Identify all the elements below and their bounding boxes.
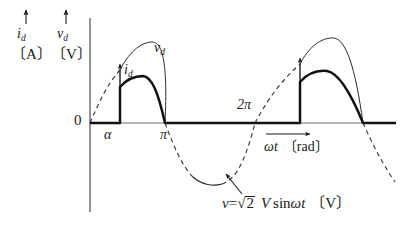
formula-radical-group: √2 (237, 196, 257, 211)
curve-label-id: id (124, 63, 133, 79)
source-voltage-formula: v=√2Vsinωt〔V〕 (222, 196, 351, 211)
x-axis-label: ωt〔rad〕 (264, 140, 329, 154)
source-sine-dashed-rise-1 (90, 70, 120, 123)
formula-leader-arrow (226, 174, 242, 194)
tick-label-pi: π (160, 128, 167, 142)
y-axis-unit-volt: 〔V〕 (51, 47, 92, 62)
source-sine-negative-1 (165, 123, 255, 185)
waveform-figure: id 〔A〕 vd 〔V〕 vd id 0 α π 2π ωt〔rad〕 v=√… (0, 0, 414, 228)
y-axis-unit-ampere: 〔A〕 (11, 47, 52, 62)
curve-label-vd: vd (154, 41, 165, 57)
source-sine-negative-2 (363, 123, 395, 182)
tick-label-alpha: α (104, 128, 111, 142)
x-axis-unit: 〔rad〕 (283, 139, 329, 154)
tick-label-twopi: 2π (237, 98, 251, 112)
formula-unit: 〔V〕 (310, 195, 351, 211)
formula-argument: ωt (291, 195, 306, 211)
formula-equals: = (229, 195, 237, 211)
radical-sign: √ (237, 195, 245, 211)
y-axis-label-vd: vd (57, 27, 68, 43)
origin-label: 0 (74, 113, 82, 128)
formula-sine: sin (273, 195, 291, 211)
x-axis-quantity: ωt (264, 139, 278, 154)
y-axis-id-subscript: d (21, 33, 26, 43)
formula-radicand: 2 (246, 195, 254, 211)
id-curve-cycle-2 (300, 71, 363, 123)
vd-curve-cycle-2 (300, 38, 363, 123)
id-curve-cycle-1 (120, 76, 165, 123)
y-axis-label-id: id (17, 27, 26, 43)
formula-lhs: v (222, 195, 229, 211)
curve-vd-subscript: d (160, 47, 165, 57)
source-sine-dashed-rise-2 (255, 64, 300, 123)
y-axis-vd-subscript: d (63, 33, 68, 43)
curve-id-subscript: d (128, 69, 133, 79)
formula-amplitude: V (261, 195, 270, 211)
